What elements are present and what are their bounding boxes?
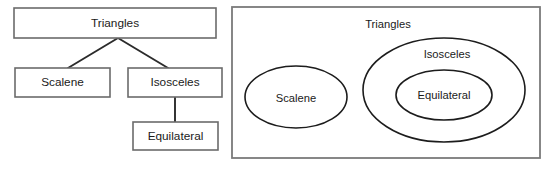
- tree-node-isosceles-label: Isosceles: [150, 75, 199, 89]
- diagram-canvas: Triangles Scalene Isosceles Equilateral …: [0, 0, 546, 171]
- tree-node-triangles[interactable]: Triangles: [14, 8, 216, 38]
- venn-label-isosceles: Isosceles: [424, 48, 471, 60]
- tree-node-isosceles[interactable]: Isosceles: [128, 68, 222, 97]
- triangle-hierarchy-tree: Triangles Scalene Isosceles Equilateral: [14, 8, 222, 150]
- triangle-classification-diagram: Triangles Scalene Isosceles Equilateral …: [0, 0, 546, 171]
- venn-universe-label: Triangles: [365, 18, 411, 30]
- tree-node-equilateral[interactable]: Equilateral: [133, 122, 218, 150]
- venn-label-equilateral: Equilateral: [418, 89, 471, 101]
- venn-label-scalene: Scalene: [276, 92, 316, 104]
- tree-node-triangles-label: Triangles: [91, 16, 139, 30]
- tree-node-scalene[interactable]: Scalene: [15, 68, 110, 97]
- tree-node-scalene-label: Scalene: [41, 75, 84, 89]
- edge-root-to-scalene: [68, 38, 118, 68]
- triangle-euler-diagram: Triangles Scalene Isosceles Equilateral: [232, 7, 540, 158]
- edge-root-to-isosceles: [118, 38, 168, 68]
- tree-node-equilateral-label: Equilateral: [148, 129, 204, 143]
